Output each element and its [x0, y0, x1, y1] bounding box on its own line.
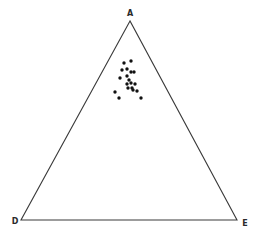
data-point — [131, 88, 134, 91]
data-point — [125, 67, 128, 70]
vertex-label-d: D — [12, 218, 19, 226]
data-point — [120, 68, 123, 71]
data-point — [117, 96, 120, 99]
data-point — [132, 70, 135, 73]
data-point — [133, 82, 136, 85]
data-points — [113, 59, 142, 99]
data-point — [118, 76, 121, 79]
data-point — [135, 89, 138, 92]
data-point — [129, 59, 132, 62]
data-point — [113, 90, 116, 93]
vertex-label-e: E — [242, 220, 247, 228]
vertex-label-a: A — [127, 10, 133, 18]
triangle-outline — [21, 21, 237, 220]
ternary-diagram: A D E — [0, 0, 260, 240]
data-point — [125, 74, 128, 77]
data-point — [126, 86, 129, 89]
data-point — [129, 70, 132, 73]
data-point — [122, 61, 125, 64]
data-point — [129, 81, 132, 84]
data-point — [139, 96, 142, 99]
data-point — [125, 82, 128, 85]
ternary-plot — [0, 0, 260, 240]
data-point — [127, 78, 130, 81]
